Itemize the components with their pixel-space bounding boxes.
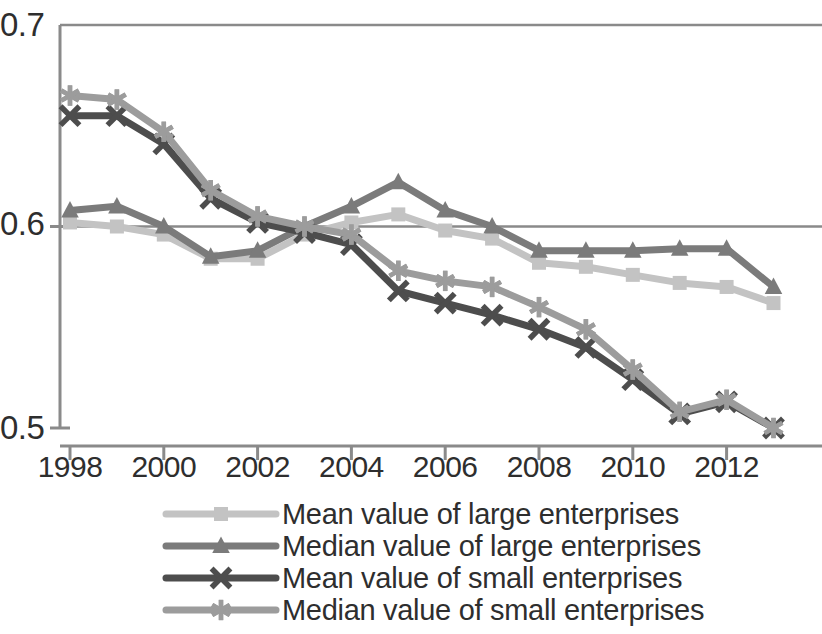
series-line-3 — [70, 96, 774, 429]
x-axis-tick-2: 2002 — [225, 452, 290, 482]
marker-square — [391, 207, 405, 221]
legend-swatch-asterisk-icon — [160, 594, 282, 626]
y-axis-tick-2: 0.5 — [0, 411, 62, 444]
series-line-2 — [70, 116, 774, 428]
marker-square — [63, 215, 77, 229]
marker-square — [626, 268, 640, 282]
y-axis-tick-1: 0.6 — [0, 207, 62, 240]
marker-square — [110, 220, 124, 234]
legend-label-median-large: Median value of large enterprises — [282, 531, 701, 562]
chart-container: 0.7 0.6 0.5 1998200020022004200620082010… — [0, 0, 822, 634]
marker-square — [720, 280, 734, 294]
x-axis-tick-7: 2012 — [694, 452, 759, 482]
legend-label-median-small: Median value of small enterprises — [282, 595, 704, 626]
legend-label-mean-small: Mean value of small enterprises — [282, 563, 682, 594]
legend-item-mean-small: Mean value of small enterprises — [160, 562, 820, 594]
x-axis-tick-3: 2004 — [319, 452, 384, 482]
chart-svg — [0, 0, 822, 500]
x-axis-tick-0: 1998 — [38, 452, 103, 482]
y-axis-tick-0: 0.7 — [0, 8, 62, 41]
legend-item-median-small: Median value of small enterprises — [160, 594, 820, 626]
series-line-1 — [70, 182, 774, 287]
legend-label-mean-large: Mean value of large enterprises — [282, 499, 679, 530]
x-axis-tick-6: 2010 — [600, 452, 665, 482]
marker-square — [579, 260, 593, 274]
legend-swatch-x-icon — [160, 562, 282, 594]
chart-legend: Mean value of large enterprises Median v… — [160, 498, 820, 626]
x-axis-tick-5: 2008 — [507, 452, 572, 482]
series-markers-2 — [61, 106, 783, 437]
marker-square — [214, 507, 228, 521]
marker-triangle — [390, 173, 408, 190]
marker-square — [767, 296, 781, 310]
marker-square — [438, 224, 452, 238]
legend-item-median-large: Median value of large enterprises — [160, 530, 820, 562]
marker-square — [532, 256, 546, 270]
legend-item-mean-large: Mean value of large enterprises — [160, 498, 820, 530]
legend-swatch-square-icon — [160, 498, 282, 530]
x-axis-tick-4: 2006 — [413, 452, 478, 482]
marker-square — [673, 276, 687, 290]
marker-square — [485, 232, 499, 246]
plot-area — [0, 0, 822, 500]
x-axis-tick-1: 2000 — [131, 452, 196, 482]
legend-swatch-triangle-icon — [160, 530, 282, 562]
